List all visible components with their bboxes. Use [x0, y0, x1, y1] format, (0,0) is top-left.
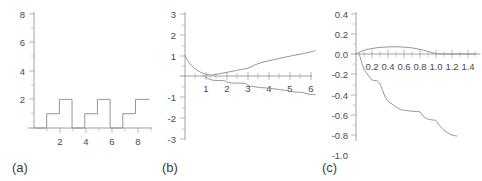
ytick-b-4: -2 — [168, 113, 176, 124]
series-arch-curve — [356, 47, 480, 54]
xtick-a-1: 4 — [83, 136, 88, 147]
ytick-c-2: 0.0 — [335, 49, 348, 60]
xtick-a-2: 6 — [109, 136, 114, 147]
ytick-a-0: 2 — [20, 94, 25, 105]
panel-label-b: (b) — [162, 160, 178, 175]
ytick-b-5: -3 — [168, 134, 176, 145]
ytick-a-3: 8 — [20, 9, 25, 20]
ytick-a-2: 6 — [20, 37, 25, 48]
chart-c-xtick-labels: 0.2 0.4 0.6 0.8 1.0 1.2 1.4 — [365, 61, 474, 72]
ytick-c-6: -0.8 — [332, 130, 348, 141]
chart-b-ticks — [180, 14, 311, 139]
xtick-a-3: 8 — [135, 136, 140, 147]
xtick-b-4: 5 — [287, 83, 292, 94]
panel-label-c: (c) — [322, 160, 337, 175]
xtick-b-2: 3 — [245, 83, 250, 94]
chart-c-svg: 0.4 0.2 0.0 -0.2 -0.4 -0.6 -0.8 -1.0 0.2… — [318, 0, 482, 181]
chart-a-ticks — [29, 14, 151, 133]
xtick-c-1: 0.4 — [381, 61, 394, 72]
ytick-c-3: -0.2 — [332, 69, 348, 80]
xtick-c-6: 1.4 — [461, 61, 474, 72]
chart-panel-a: 2 4 6 8 2 4 6 8 (a) — [0, 0, 160, 181]
chart-a-axes — [28, 12, 152, 128]
ytick-b-3: -1 — [168, 92, 176, 103]
chart-b-ytick-labels: 3 2 1 -1 -2 -3 — [168, 9, 176, 145]
ytick-c-0: 0.4 — [335, 9, 348, 20]
xtick-c-4: 1.0 — [429, 61, 442, 72]
series-step-function — [34, 99, 149, 128]
chart-c-axes — [351, 12, 476, 141]
ytick-c-4: -0.4 — [332, 90, 348, 101]
xtick-c-2: 0.6 — [397, 61, 410, 72]
chart-panel-c: 0.4 0.2 0.0 -0.2 -0.4 -0.6 -0.8 -1.0 0.2… — [318, 0, 482, 181]
xtick-b-0: 1 — [203, 83, 208, 94]
chart-b-svg: 3 2 1 -1 -2 -3 1 2 3 4 5 6 (b) — [160, 0, 318, 181]
ytick-a-1: 4 — [20, 66, 25, 77]
chart-a-xtick-labels: 2 4 6 8 — [57, 136, 140, 147]
chart-c-ytick-labels: 0.4 0.2 0.0 -0.2 -0.4 -0.6 -0.8 -1.0 — [332, 9, 348, 161]
xtick-b-1: 2 — [224, 83, 229, 94]
xtick-c-3: 0.8 — [413, 61, 426, 72]
ytick-b-0: 3 — [171, 9, 176, 20]
ytick-c-1: 0.2 — [335, 29, 348, 40]
xtick-a-0: 2 — [57, 136, 62, 147]
series-lower-curve — [204, 76, 315, 95]
panel-label-a: (a) — [12, 160, 28, 175]
xtick-b-5: 6 — [308, 83, 313, 94]
xtick-c-0: 0.2 — [365, 61, 378, 72]
chart-a-svg: 2 4 6 8 2 4 6 8 (a) — [0, 0, 160, 181]
chart-panel-b: 3 2 1 -1 -2 -3 1 2 3 4 5 6 (b) — [160, 0, 318, 181]
xtick-c-5: 1.2 — [445, 61, 458, 72]
figure-container: 2 4 6 8 2 4 6 8 (a) — [0, 0, 482, 181]
chart-b-axes — [180, 12, 312, 140]
ytick-b-2: 1 — [171, 51, 176, 62]
ytick-c-5: -0.6 — [332, 110, 348, 121]
series-upper-curve — [185, 51, 315, 75]
chart-c-ticks — [351, 14, 475, 135]
chart-a-ytick-labels: 2 4 6 8 — [20, 9, 25, 105]
ytick-b-1: 2 — [171, 30, 176, 41]
